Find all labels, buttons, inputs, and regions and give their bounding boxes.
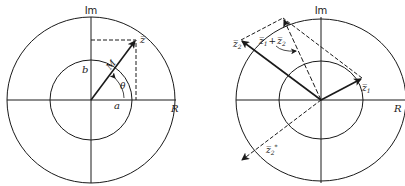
vector-z1 — [321, 79, 361, 100]
right-diagram: Im R z̅1 z̅2 z̅1+z̅2 z̅2* — [232, 5, 405, 183]
vector-z2-label: z̅2 — [232, 39, 242, 50]
vector-z2-conjugate — [242, 100, 321, 160]
vector-z-label: z̅ — [139, 34, 146, 45]
magnitude-label: M — [104, 57, 119, 72]
imag-component-label: b — [82, 64, 88, 75]
conjugate-label: z̅2* — [265, 143, 278, 156]
sum-label: z̅1+z̅2 — [258, 36, 286, 47]
real-axis-label: R — [393, 103, 402, 114]
imag-axis-label: Im — [315, 5, 328, 16]
sum-label-pointer — [276, 46, 296, 51]
vector-z1-label: z̅1 — [361, 83, 371, 94]
imag-axis-label: Im — [85, 5, 98, 16]
left-diagram: Im R z̅ M θ a b — [7, 5, 179, 183]
vector-sum — [284, 20, 321, 100]
real-component-label: a — [114, 100, 120, 111]
vector-z — [91, 41, 135, 100]
real-axis-label: R — [170, 103, 179, 114]
complex-plane-figure: Im R z̅ M θ a b Im R z̅1 z̅2 z̅1+z̅2 z̅2… — [0, 0, 405, 186]
angle-label: θ — [120, 81, 126, 91]
